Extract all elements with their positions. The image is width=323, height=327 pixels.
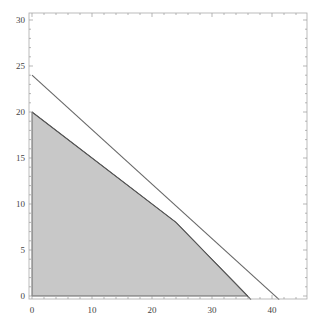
y-tick-label: 5: [21, 245, 26, 255]
plot-area: [32, 75, 279, 299]
y-tick-label: 10: [16, 199, 26, 209]
y-tick-label: 30: [16, 15, 26, 25]
feasible-region: [32, 112, 248, 296]
x-tick-label: 0: [30, 305, 35, 315]
y-tick-label: 25: [16, 61, 26, 71]
y-tick-label: 0: [21, 291, 26, 301]
x-tick-label: 10: [88, 305, 98, 315]
y-tick-label: 20: [16, 107, 26, 117]
x-tick-label: 40: [268, 305, 278, 315]
chart: 010203040051015202530: [0, 0, 323, 327]
y-tick-label: 15: [16, 153, 26, 163]
x-tick-label: 20: [148, 305, 158, 315]
x-tick-label: 30: [208, 305, 218, 315]
